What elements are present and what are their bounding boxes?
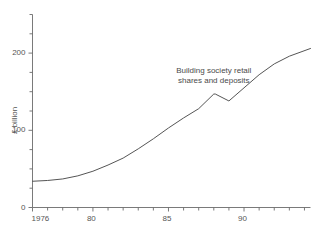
x-tick-label: 80: [87, 214, 96, 223]
line-chart: £ billion 1976808590 0100200 Building so…: [0, 0, 313, 236]
chart-plot-area: [0, 0, 313, 236]
y-tick-label: 0: [6, 203, 26, 212]
series-annotation-label: Building society retail shares and depos…: [163, 66, 265, 85]
x-tick-label: 90: [238, 214, 247, 223]
x-tick-label: 1976: [32, 214, 50, 223]
y-tick-label: 100: [6, 125, 26, 134]
x-tick-label: 85: [162, 214, 171, 223]
chart-axes: [29, 15, 311, 212]
y-tick-label: 200: [6, 48, 26, 57]
